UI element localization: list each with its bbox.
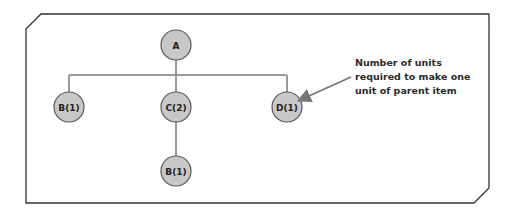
annotation-text: Number of units required to make one uni… <box>355 57 470 96</box>
node-b1-label: B(1) <box>58 103 79 113</box>
diagram-frame-border <box>26 14 489 203</box>
annotation-line-2: required to make one <box>355 71 470 82</box>
node-a: A <box>161 30 191 60</box>
product-structure-diagram: A B(1) C(2) D(1) B(1) Number of units re… <box>0 0 515 213</box>
node-b1-child-of-c2: B(1) <box>161 156 191 186</box>
annotation-arrow-icon <box>300 77 351 100</box>
node-c2-label: C(2) <box>165 103 186 113</box>
node-c2: C(2) <box>161 92 191 122</box>
node-b1: B(1) <box>54 92 84 122</box>
annotation-line-1: Number of units <box>355 57 442 68</box>
node-a-label: A <box>173 41 180 51</box>
node-d1-label: D(1) <box>276 103 298 113</box>
node-b1b-label: B(1) <box>165 167 186 177</box>
node-d1: D(1) <box>272 92 302 122</box>
annotation-line-3: unit of parent item <box>355 85 457 96</box>
